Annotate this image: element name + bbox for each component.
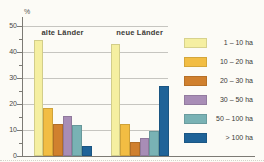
legend-swatch-30 – 50 ha — [184, 95, 207, 106]
legend-label-50 – 100 ha: 50 – 100 ha — [207, 115, 253, 123]
y-minor-tick-45 — [19, 39, 22, 40]
group-label-neue-laender: neue Länder — [105, 28, 175, 37]
y-major-tick-30 — [17, 78, 22, 79]
y-minor-tick-15 — [19, 117, 22, 118]
y-axis-unit-label: % — [20, 8, 34, 15]
bar-neue-> 100 ha — [159, 86, 169, 156]
bar-alte-30 – 50 ha — [63, 116, 73, 156]
scan-edge-line — [0, 160, 264, 161]
y-tick-label-50: 50 — [3, 22, 17, 30]
legend-swatch-1 – 10 ha — [184, 38, 207, 49]
y-tick-label-30: 30 — [3, 74, 17, 82]
gridline-20 — [22, 104, 168, 105]
legend-swatch-10 – 20 ha — [184, 57, 207, 68]
bar-neue-20 – 30 ha — [130, 142, 140, 156]
bar-neue-1 – 10 ha — [111, 44, 121, 156]
y-major-tick-10 — [17, 130, 22, 131]
y-major-tick-20 — [17, 104, 22, 105]
bar-neue-50 – 100 ha — [149, 131, 159, 156]
y-minor-tick-35 — [19, 65, 22, 66]
legend-swatch-50 – 100 ha — [184, 114, 207, 125]
legend-label-20 – 30 ha: 20 – 30 ha — [207, 77, 253, 85]
legend-swatch-> 100 ha — [184, 133, 207, 144]
y-minor-tick-5 — [19, 143, 22, 144]
group-label-alte-laender: alte Länder — [28, 28, 98, 37]
y-tick-label-0: 0 — [3, 152, 17, 160]
legend-swatch-20 – 30 ha — [184, 76, 207, 87]
bar-neue-30 – 50 ha — [140, 138, 150, 156]
y-tick-label-20: 20 — [3, 100, 17, 108]
bar-alte-> 100 ha — [82, 146, 92, 156]
y-tick-label-10: 10 — [3, 126, 17, 134]
bar-alte-1 – 10 ha — [34, 40, 44, 156]
legend-label-30 – 50 ha: 30 – 50 ha — [207, 96, 253, 104]
bar-alte-10 – 20 ha — [43, 108, 53, 156]
gridline-40 — [22, 52, 168, 53]
farm-size-bar-chart: % alte Länder neue Länder 01020304050 1 … — [0, 0, 264, 162]
bar-alte-20 – 30 ha — [53, 124, 63, 157]
y-major-tick-40 — [17, 52, 22, 53]
gridline-30 — [22, 78, 168, 79]
legend-label-> 100 ha: > 100 ha — [207, 134, 253, 142]
y-axis-line — [22, 17, 23, 156]
y-tick-label-40: 40 — [3, 48, 17, 56]
y-minor-tick-25 — [19, 91, 22, 92]
legend-label-1 – 10 ha: 1 – 10 ha — [207, 39, 253, 47]
gridline-50 — [22, 26, 168, 27]
x-axis-baseline — [22, 156, 255, 157]
legend-label-10 – 20 ha: 10 – 20 ha — [207, 58, 253, 66]
bar-alte-50 – 100 ha — [72, 125, 82, 156]
y-major-tick-50 — [17, 26, 22, 27]
bar-neue-10 – 20 ha — [120, 124, 130, 157]
